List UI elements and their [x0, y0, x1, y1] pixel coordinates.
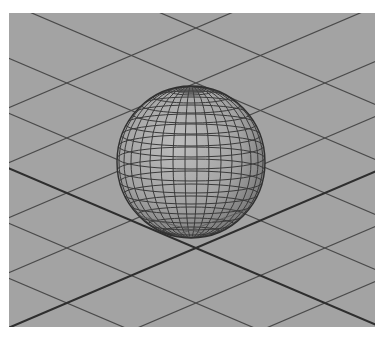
bottom-strip — [9, 327, 375, 340]
polygon-sphere[interactable] — [117, 86, 265, 245]
top-caption — [0, 0, 200, 5]
viewport-canvas[interactable] — [9, 13, 375, 327]
perspective-viewport[interactable] — [9, 13, 375, 327]
sphere-pole — [177, 88, 205, 94]
